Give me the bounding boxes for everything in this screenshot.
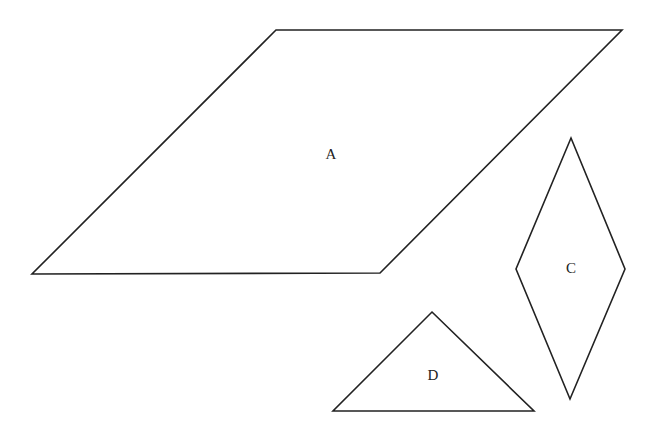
shape-c-group: C [516,138,625,399]
shape-d-group: D [333,312,534,411]
label-c: C [566,260,576,276]
shapes-diagram: A C D [0,0,651,445]
shape-a-group: A [32,30,622,274]
label-a: A [326,146,337,162]
triangle-d [333,312,534,411]
diagram-canvas: A C D [0,0,651,445]
label-d: D [428,367,439,383]
